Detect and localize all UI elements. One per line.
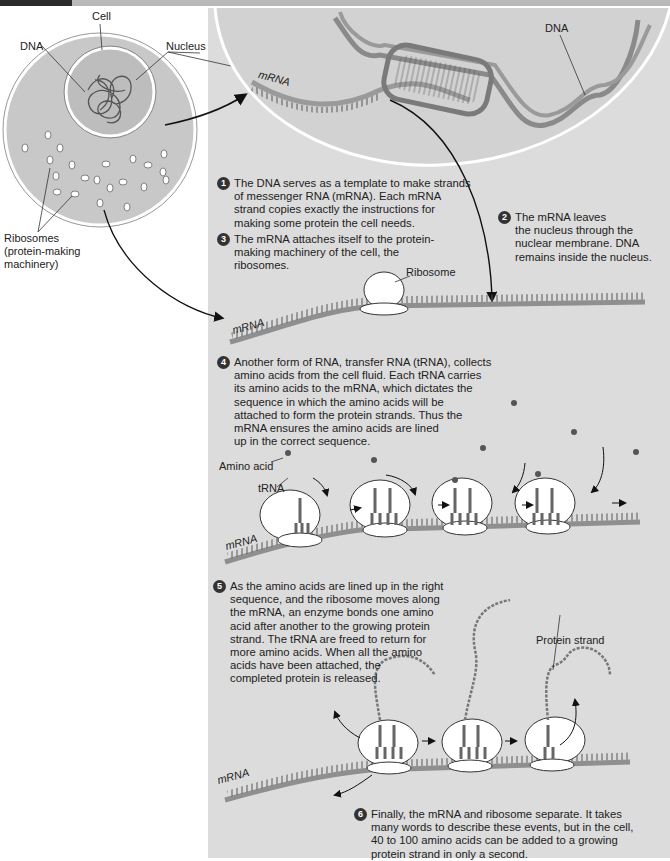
step-number-badge: 2 — [498, 211, 511, 224]
step-1: 1 The DNA serves as a template to make s… — [234, 177, 471, 230]
step-5: 5 As the amino acids are lined up in the… — [230, 580, 444, 686]
step-2: 2 The mRNA leaves the nucleus through th… — [515, 211, 652, 264]
step-number-badge: 4 — [217, 356, 230, 369]
step-text: The DNA serves as a template to make str… — [234, 177, 471, 230]
label-amino-acid: Amino acid — [219, 460, 273, 473]
step-text: The mRNA attaches itself to the protein-… — [234, 233, 434, 273]
mrna-strand-step3-icon — [230, 272, 645, 342]
label-trna: tRNA — [258, 482, 284, 495]
step-text: The mRNA leaves the nucleus through the … — [515, 211, 652, 264]
step-4: 4 Another form of RNA, transfer RNA (tRN… — [234, 356, 491, 448]
label-dna-left: DNA — [20, 40, 43, 53]
step-number-badge: 3 — [217, 233, 230, 246]
step-number-badge: 6 — [354, 808, 367, 821]
step-text: Finally, the mRNA and ribosome separate.… — [371, 808, 633, 861]
step-6: 6 Finally, the mRNA and ribosome separat… — [371, 808, 633, 861]
label-dna-right: DNA — [545, 22, 568, 35]
step-text: As the amino acids are lined up in the r… — [230, 580, 444, 686]
label-cell: Cell — [92, 10, 111, 23]
label-ribosomes: Ribosomes (protein-making machinery) — [4, 232, 80, 271]
cell-icon — [3, 24, 240, 232]
step-3: 3 The mRNA attaches itself to the protei… — [234, 233, 434, 273]
step-text: Another form of RNA, transfer RNA (tRNA)… — [234, 356, 491, 448]
label-nucleus: Nucleus — [166, 40, 206, 53]
step-number-badge: 1 — [217, 177, 230, 190]
step-number-badge: 5 — [213, 580, 226, 593]
label-protein-strand: Protein strand — [536, 634, 604, 647]
arrow-to-ribosome-icon — [104, 210, 222, 318]
